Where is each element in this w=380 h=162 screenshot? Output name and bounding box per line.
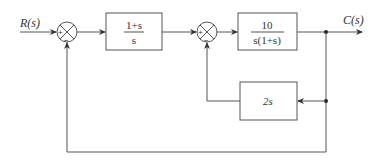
input-label: R(s): [19, 16, 40, 30]
block-g1: 1+s s: [106, 13, 162, 50]
h-transfer-function: 2s: [263, 95, 273, 107]
block-diagram: R(s) + − 1+s s + − 10 s(1+s) C(s): [0, 0, 380, 162]
g2-denominator: s(1+s): [253, 34, 281, 47]
block-g2: 10 s(1+s): [238, 13, 297, 50]
inner-feedback-return-line: [207, 43, 240, 101]
output-label: C(s): [343, 13, 364, 27]
sum2-plus-sign: +: [198, 28, 203, 37]
g1-denominator: s: [132, 34, 136, 46]
g1-numerator: 1+s: [126, 19, 142, 31]
summing-junction-2: + −: [197, 22, 217, 45]
g2-numerator: 10: [262, 19, 274, 31]
summing-junction-1: + −: [57, 22, 77, 45]
block-h: 2s: [240, 82, 297, 120]
sum1-plus-sign: +: [58, 28, 63, 37]
